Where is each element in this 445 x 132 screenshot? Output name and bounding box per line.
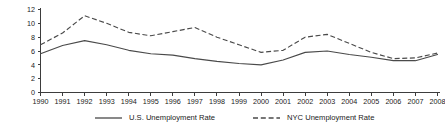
x-tick-label: 1998 [209, 97, 225, 106]
x-tick-label: 2007 [407, 97, 423, 106]
x-tick-label: 1996 [165, 97, 181, 106]
x-tick-label: 2003 [319, 97, 335, 106]
chart-canvas: 024681012 199019911992199319941995199619… [0, 0, 445, 132]
x-tick-label: 2005 [363, 97, 379, 106]
unemployment-rate-line-chart: 024681012 199019911992199319941995199619… [0, 0, 445, 132]
x-tick-label: 1991 [55, 97, 71, 106]
x-tick-label: 2000 [253, 97, 269, 106]
x-tick-label: 1993 [99, 97, 115, 106]
y-tick-label: 2 [31, 74, 35, 83]
legend-label-nyc: NYC Unemployment Rate [287, 113, 374, 122]
y-tick-label: 8 [31, 33, 35, 42]
x-tick-label: 1994 [121, 97, 137, 106]
legend-label-us: U.S. Unemployment Rate [129, 113, 215, 122]
x-tick-label: 2001 [275, 97, 291, 106]
x-tick-label: 2004 [341, 97, 357, 106]
x-tick-label: 1997 [187, 97, 203, 106]
x-axis: 1990199119921993199419951996199719981999… [33, 93, 445, 106]
x-tick-label: 1992 [77, 97, 93, 106]
y-tick-label: 4 [31, 61, 35, 70]
x-tick-label: 1995 [143, 97, 159, 106]
data-series-group [41, 16, 438, 65]
y-tick-label: 6 [31, 47, 35, 56]
x-tick-label: 2006 [385, 97, 401, 106]
series-line-nyc [41, 16, 438, 59]
x-tick-label: 2008 [430, 97, 445, 106]
y-tick-label: 10 [27, 19, 35, 28]
y-axis: 024681012 [27, 5, 41, 97]
chart-legend: U.S. Unemployment RateNYC Unemployment R… [95, 113, 374, 122]
x-tick-label: 1990 [33, 97, 49, 106]
y-tick-label: 12 [27, 5, 35, 14]
x-tick-label: 1999 [231, 97, 247, 106]
x-tick-label: 2002 [297, 97, 313, 106]
